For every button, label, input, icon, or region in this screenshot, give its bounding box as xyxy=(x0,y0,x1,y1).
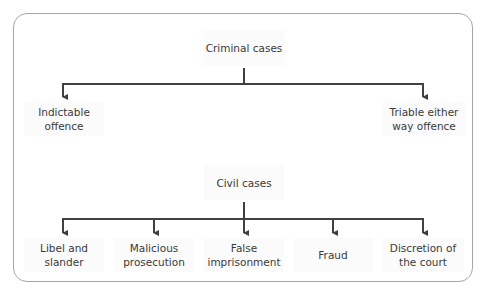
triable-either-way-node: Triable either way offence xyxy=(383,102,465,136)
node-line: offence xyxy=(44,119,83,133)
node-line: Indictable xyxy=(38,105,90,119)
node-line: Fraud xyxy=(318,248,347,262)
node-line: Libel and xyxy=(40,241,88,255)
node-line: the court xyxy=(399,255,447,269)
libel-slander-node: Libel and slander xyxy=(24,238,104,272)
criminal-cases-label: Criminal cases xyxy=(206,41,283,55)
node-line: slander xyxy=(45,255,84,269)
discretion-of-court-node: Discretion of the court xyxy=(382,238,464,272)
civil-cases-node: Civil cases xyxy=(204,165,284,200)
node-line: Malicious xyxy=(130,241,179,255)
fraud-node: Fraud xyxy=(293,238,373,272)
node-line: way offence xyxy=(392,119,456,133)
node-line: Discretion of xyxy=(390,241,456,255)
false-imprisonment-node: False imprisonment xyxy=(204,238,284,272)
node-line: Triable either xyxy=(390,105,459,119)
civil-cases-label: Civil cases xyxy=(216,176,271,190)
indictable-offence-node: Indictable offence xyxy=(24,102,104,136)
malicious-prosecution-node: Malicious prosecution xyxy=(114,238,194,272)
criminal-cases-node: Criminal cases xyxy=(204,30,284,66)
node-line: prosecution xyxy=(123,255,185,269)
node-line: False xyxy=(231,241,257,255)
node-line: imprisonment xyxy=(207,255,280,269)
